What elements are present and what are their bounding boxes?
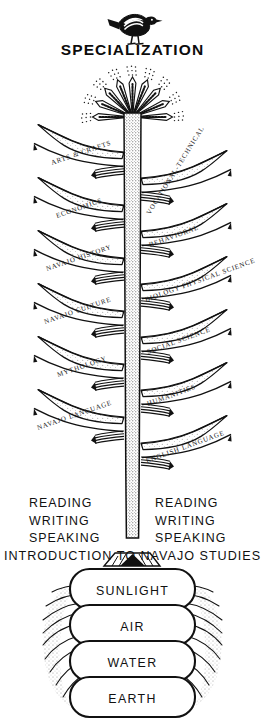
skills-right-line3: SPEAKING [155, 530, 226, 548]
skills-right-line2: WRITING [155, 513, 226, 531]
branch-group-left [33, 125, 124, 444]
page-title: SPECIALIZATION [0, 41, 265, 59]
root-capsules: SUNLIGHT AIR WATER EARTH [70, 569, 195, 717]
skills-left-line2: WRITING [29, 513, 100, 531]
skills-left: READING WRITING SPEAKING [29, 495, 100, 548]
root-capsule-sunlight[interactable]: SUNLIGHT [70, 569, 195, 609]
root-capsule-water[interactable]: WATER [70, 641, 195, 681]
branch-label-biology-physical-science: BIOLOGY PHYSICAL SCIENCE [144, 256, 256, 303]
bird-icon [108, 14, 163, 44]
root-capsule-earth[interactable]: EARTH [70, 677, 195, 717]
root-label-water: WATER [108, 656, 158, 670]
root-label-earth: EARTH [108, 692, 156, 706]
skills-right-line1: READING [155, 495, 226, 513]
root-label-air: AIR [120, 620, 145, 634]
skills-left-line3: SPEAKING [29, 530, 100, 548]
skills-right: READING WRITING SPEAKING [155, 495, 226, 548]
tree-artwork: ARTS & CRAFTS ECONOMICS NAVAJO HISTORY N… [0, 0, 265, 719]
skills-left-line1: READING [29, 495, 100, 513]
root-capsule-air[interactable]: AIR [70, 605, 195, 645]
tree-trunk [124, 113, 141, 538]
diagram-canvas: ARTS & CRAFTS ECONOMICS NAVAJO HISTORY N… [0, 0, 265, 719]
root-label-sunlight: SUNLIGHT [96, 584, 169, 598]
foundation-label: INTRODUCTION TO NAVAJO STUDIES [0, 549, 265, 563]
